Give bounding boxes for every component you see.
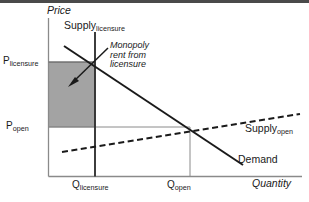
diagram-svg xyxy=(0,0,309,202)
quantity-open-tick-label: Qopen xyxy=(167,180,191,191)
supply-open-label: Supplyopen xyxy=(245,123,293,134)
quantity-licensure-tick-sub: licensure xyxy=(80,183,109,192)
monopoly-rent-annotation: Monopoly rent from licensure xyxy=(110,41,149,70)
supply-licensure-label-main: Supply xyxy=(64,19,96,31)
monopoly-rent-shaded-region xyxy=(49,62,96,127)
price-licensure-tick-sub: licensure xyxy=(10,59,39,68)
figure-canvas: Price Quantity Supplylicensure Supplyope… xyxy=(0,0,309,202)
supply-open-label-sub: open xyxy=(277,127,293,136)
y-axis-title: Price xyxy=(47,5,71,16)
supply-licensure-label-sub: licensure xyxy=(96,24,125,33)
quantity-open-tick-main: Q xyxy=(167,179,175,190)
price-licensure-tick-label: Plicensure xyxy=(3,56,38,67)
price-open-tick-sub: open xyxy=(13,124,29,133)
demand-label: Demand xyxy=(238,154,278,165)
quantity-licensure-tick-main: Q xyxy=(72,179,80,190)
quantity-licensure-tick-label: Qlicensure xyxy=(72,180,109,191)
monopoly-rent-annotation-line3: licensure xyxy=(110,60,149,70)
x-axis-title: Quantity xyxy=(252,178,291,189)
price-open-tick-main: P xyxy=(6,120,13,131)
supply-licensure-label: Supplylicensure xyxy=(64,20,125,31)
quantity-open-tick-sub: open xyxy=(175,183,191,192)
supply-open-label-main: Supply xyxy=(245,122,277,134)
price-open-tick-label: Popen xyxy=(6,121,29,132)
price-licensure-tick-main: P xyxy=(3,55,10,66)
